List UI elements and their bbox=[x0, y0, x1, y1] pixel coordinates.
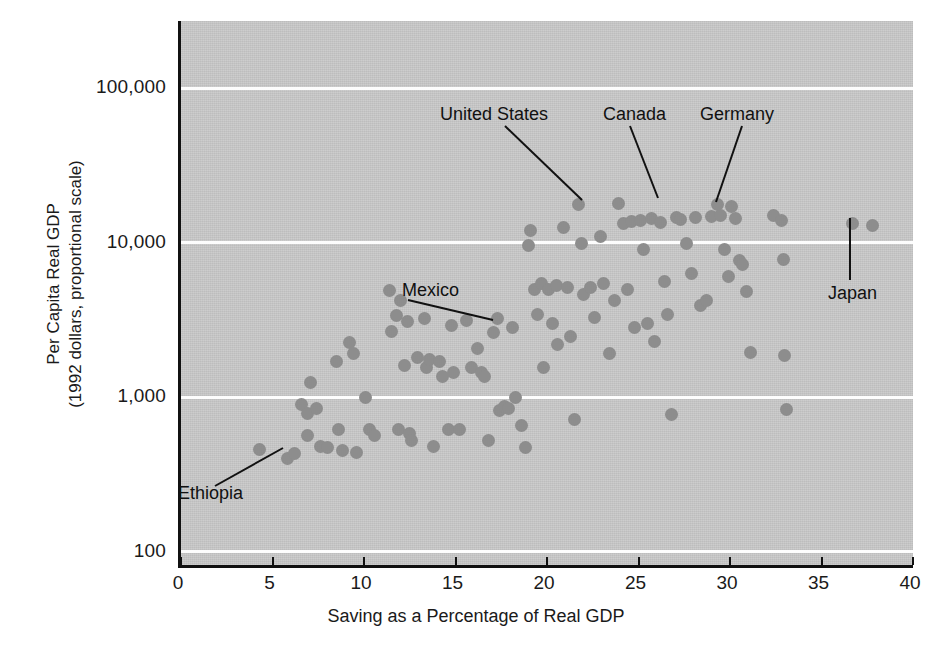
y-axis-title-line2: (1992 dollars, proportional scale) bbox=[65, 129, 87, 439]
data-point bbox=[648, 335, 661, 348]
data-point bbox=[301, 429, 314, 442]
data-point bbox=[725, 200, 738, 213]
data-point bbox=[385, 325, 398, 338]
data-point bbox=[401, 315, 414, 328]
data-point bbox=[509, 391, 522, 404]
data-point bbox=[546, 317, 559, 330]
data-point bbox=[519, 441, 532, 454]
annotation-label-ethiopia: Ethiopia bbox=[178, 483, 243, 504]
data-point bbox=[778, 349, 791, 362]
data-point bbox=[506, 321, 519, 334]
y-tick-label-10000: 10,000 bbox=[107, 231, 166, 253]
data-point bbox=[515, 419, 528, 432]
x-tick-mark-0 bbox=[180, 557, 182, 565]
gridline-10000 bbox=[181, 241, 913, 244]
data-point bbox=[557, 221, 570, 234]
data-point bbox=[482, 434, 495, 447]
x-tick-mark-25 bbox=[638, 557, 640, 565]
data-point bbox=[551, 338, 564, 351]
y-axis-title: Per Capita Real GDP (1992 dollars, propo… bbox=[43, 129, 87, 439]
x-tick-label-40: 40 bbox=[880, 572, 940, 594]
data-point bbox=[689, 211, 702, 224]
x-tick-mark-30 bbox=[729, 557, 731, 565]
gridline-1000 bbox=[181, 396, 913, 399]
data-point bbox=[777, 253, 790, 266]
x-tick-label-0: 0 bbox=[148, 572, 208, 594]
data-point bbox=[736, 258, 749, 271]
annotation-label-mexico: Mexico bbox=[402, 280, 459, 301]
annotation-label-germany: Germany bbox=[700, 104, 774, 125]
data-point bbox=[522, 239, 535, 252]
data-point bbox=[654, 216, 667, 229]
data-point bbox=[661, 308, 674, 321]
data-point bbox=[722, 270, 735, 283]
x-tick-label-35: 35 bbox=[789, 572, 849, 594]
data-point bbox=[502, 402, 515, 415]
gridline-100000 bbox=[181, 87, 913, 90]
data-point bbox=[637, 243, 650, 256]
data-point bbox=[718, 243, 731, 256]
data-point bbox=[658, 275, 671, 288]
data-point bbox=[531, 308, 544, 321]
data-point bbox=[447, 366, 460, 379]
data-point bbox=[665, 408, 678, 421]
data-point bbox=[594, 230, 607, 243]
x-tick-mark-15 bbox=[455, 557, 457, 565]
data-point bbox=[608, 294, 621, 307]
data-point bbox=[561, 281, 574, 294]
data-point bbox=[685, 267, 698, 280]
data-point bbox=[310, 402, 323, 415]
data-point bbox=[478, 370, 491, 383]
x-tick-mark-5 bbox=[272, 557, 274, 565]
data-point bbox=[491, 312, 504, 325]
data-point bbox=[253, 443, 266, 456]
data-point bbox=[621, 283, 634, 296]
data-point bbox=[603, 347, 616, 360]
gridline-100 bbox=[181, 550, 913, 553]
data-point bbox=[418, 312, 431, 325]
data-point bbox=[350, 446, 363, 459]
x-tick-label-5: 5 bbox=[240, 572, 300, 594]
y-tick-label-100000: 100,000 bbox=[96, 76, 166, 98]
data-point bbox=[584, 281, 597, 294]
x-tick-label-15: 15 bbox=[423, 572, 483, 594]
y-tick-label-100: 100 bbox=[134, 540, 166, 562]
data-point bbox=[628, 321, 641, 334]
data-point bbox=[564, 330, 577, 343]
data-point bbox=[487, 326, 500, 339]
data-point bbox=[575, 237, 588, 250]
x-tick-mark-10 bbox=[363, 557, 365, 565]
x-tick-label-30: 30 bbox=[697, 572, 757, 594]
scatter-chart-figure: United StatesCanadaGermanyMexicoJapanEth… bbox=[0, 0, 952, 647]
data-point bbox=[775, 214, 788, 227]
data-point bbox=[674, 213, 687, 226]
data-point bbox=[304, 376, 317, 389]
data-point-canada bbox=[612, 197, 625, 210]
data-point bbox=[321, 441, 334, 454]
data-point bbox=[740, 285, 753, 298]
data-point-japan bbox=[846, 217, 859, 230]
x-axis-title: Saving as a Percentage of Real GDP bbox=[0, 606, 952, 627]
data-point bbox=[288, 447, 301, 460]
annotation-label-japan: Japan bbox=[828, 283, 877, 304]
data-point bbox=[445, 319, 458, 332]
annotation-label-canada: Canada bbox=[603, 104, 666, 125]
data-point bbox=[398, 359, 411, 372]
data-point bbox=[347, 347, 360, 360]
annotation-label-united-states: United States bbox=[440, 104, 548, 125]
x-axis-ticks: 0510152025303540 bbox=[0, 572, 952, 602]
x-tick-label-20: 20 bbox=[514, 572, 574, 594]
data-point bbox=[330, 355, 343, 368]
x-tick-mark-35 bbox=[821, 557, 823, 565]
data-point bbox=[729, 212, 742, 225]
data-point bbox=[680, 237, 693, 250]
data-point bbox=[714, 209, 727, 222]
y-tick-label-1000: 1,000 bbox=[117, 385, 166, 407]
data-point-united-states bbox=[572, 198, 585, 211]
data-point bbox=[383, 284, 396, 297]
data-point bbox=[744, 346, 757, 359]
data-point bbox=[471, 342, 484, 355]
data-point bbox=[453, 423, 466, 436]
data-point bbox=[359, 391, 372, 404]
data-point bbox=[537, 361, 550, 374]
